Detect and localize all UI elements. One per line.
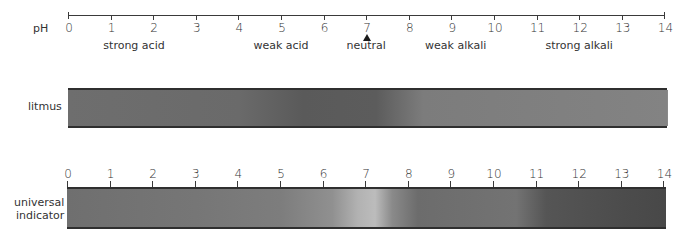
ph-descriptor-label: weak acid xyxy=(253,40,308,52)
ph-tick-label: 10 xyxy=(487,22,502,34)
universal-indicator-label: universal indicator xyxy=(14,196,64,222)
ph-tick-label: 7 xyxy=(363,22,371,34)
ph-descriptor-label: strong alkali xyxy=(546,40,613,52)
ph-tick xyxy=(366,15,367,20)
universal-indicator-tick-label: 11 xyxy=(529,168,544,180)
universal-indicator-tick-label: 12 xyxy=(572,168,587,180)
ph-tick-label: 13 xyxy=(615,22,630,34)
universal-indicator-color-bar xyxy=(67,187,666,229)
universal-indicator-tick-label: 7 xyxy=(362,168,370,180)
universal-indicator-tick-label: 8 xyxy=(405,168,413,180)
litmus-color-bar xyxy=(68,88,667,128)
universal-indicator-tick-label: 0 xyxy=(64,168,72,180)
ph-descriptor-label: strong acid xyxy=(103,40,164,52)
ph-label: pH xyxy=(33,22,48,35)
universal-indicator-tick-label: 9 xyxy=(448,168,456,180)
ph-tick-label: 9 xyxy=(449,22,457,34)
ph-tick xyxy=(409,15,410,20)
ph-tick xyxy=(196,15,197,20)
ph-descriptor-label: weak alkali xyxy=(425,40,486,52)
ph-tick-label: 3 xyxy=(193,22,201,34)
ph-tick xyxy=(494,15,495,20)
ph-tick xyxy=(537,15,538,20)
ph-tick-label: 1 xyxy=(108,22,116,34)
neutral-marker-triangle-icon xyxy=(363,34,371,41)
ph-tick xyxy=(622,15,623,20)
universal-indicator-label-line1: universal xyxy=(14,196,64,209)
universal-indicator-tick-label: 1 xyxy=(107,168,115,180)
ph-tick-label: 0 xyxy=(65,22,73,34)
universal-indicator-label-line2: indicator xyxy=(16,209,64,222)
universal-indicator-tick-label: 4 xyxy=(235,168,243,180)
universal-indicator-tick-label: 5 xyxy=(277,168,285,180)
ph-tick xyxy=(281,15,282,20)
ph-descriptor-label: neutral xyxy=(347,40,386,52)
ph-tick xyxy=(111,15,112,20)
litmus-label: litmus xyxy=(28,100,62,113)
ph-tick-label: 2 xyxy=(150,22,158,34)
universal-indicator-tick-label: 10 xyxy=(486,168,501,180)
ph-tick-label: 11 xyxy=(530,22,545,34)
ph-tick xyxy=(451,15,452,20)
ph-tick xyxy=(579,15,580,20)
ph-tick xyxy=(664,12,665,19)
ph-tick-label: 8 xyxy=(406,22,414,34)
universal-indicator-tick-label: 3 xyxy=(192,168,200,180)
ph-tick xyxy=(238,15,239,20)
universal-indicator-tick-label: 14 xyxy=(657,168,672,180)
litmus-bar-end xyxy=(667,90,668,126)
ph-tick-label: 14 xyxy=(658,22,673,34)
ph-tick-label: 12 xyxy=(573,22,588,34)
universal-indicator-tick-label: 2 xyxy=(149,168,157,180)
ph-tick-label: 5 xyxy=(278,22,286,34)
ph-tick-label: 6 xyxy=(321,22,329,34)
ph-tick xyxy=(324,15,325,20)
ph-tick xyxy=(68,12,69,19)
ph-tick xyxy=(153,15,154,20)
universal-indicator-tick-label: 6 xyxy=(320,168,328,180)
ph-tick-label: 4 xyxy=(236,22,244,34)
universal-indicator-tick-label: 13 xyxy=(614,168,629,180)
